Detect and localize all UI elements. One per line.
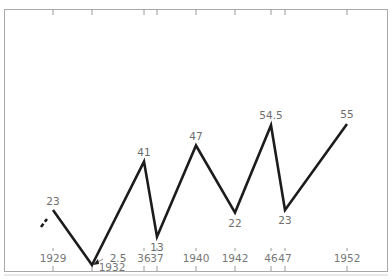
x-tick-label: 1929	[40, 252, 67, 264]
x-tick-label: 1942	[222, 252, 249, 264]
data-value-label: 2.5	[110, 252, 127, 264]
x-tick-label: 47	[278, 252, 291, 264]
x-tick-label: 36	[137, 252, 151, 264]
x-tick-label: 46	[264, 252, 278, 264]
leading-dashed-segment	[41, 219, 47, 227]
data-value-labels: 232.54113472254.52355	[46, 108, 353, 264]
x-tick-label: 1940	[183, 252, 210, 264]
x-tick-label: 37	[150, 252, 163, 264]
data-series-line	[53, 124, 347, 265]
x-axis-tick-labels: 1929193236371940194246471952	[40, 252, 361, 273]
chart-svg: 1929193236371940194246471952 232.5411347…	[0, 0, 392, 279]
line-chart: 1929193236371940194246471952 232.5411347…	[0, 0, 392, 279]
data-value-label: 54.5	[259, 109, 282, 121]
data-value-label: 23	[278, 214, 291, 226]
data-value-label: 55	[340, 108, 353, 120]
data-value-label: 47	[189, 130, 202, 142]
data-value-label: 22	[228, 217, 241, 229]
data-value-label: 13	[150, 241, 163, 253]
data-value-label: 23	[46, 195, 59, 207]
x-tick-label: 1952	[334, 252, 361, 264]
data-value-label: 41	[137, 146, 150, 158]
